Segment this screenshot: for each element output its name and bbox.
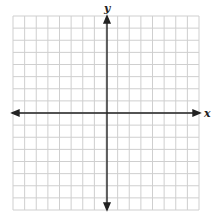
y-axis-label: y: [103, 2, 112, 15]
x-axis-label: x: [203, 107, 211, 120]
coordinate-plane: x y: [0, 0, 215, 224]
